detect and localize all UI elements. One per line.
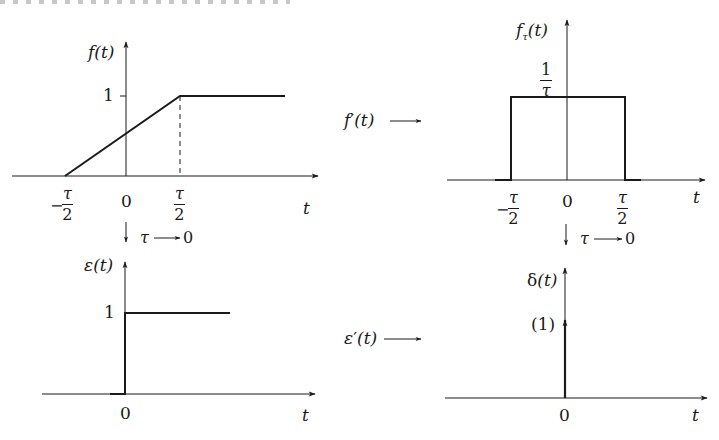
impulse-weight: (1) xyxy=(531,316,555,333)
ylabel-delta: δ(t) xyxy=(527,272,557,289)
limit-tau: τ xyxy=(580,231,589,247)
limit-arrow-right xyxy=(566,224,622,245)
tick-zero: 0 xyxy=(120,405,131,422)
pulse-signal xyxy=(495,97,641,180)
limit-zero: 0 xyxy=(625,231,635,247)
side-label-f-prime: f′(t) xyxy=(344,112,374,129)
step-signal xyxy=(110,313,230,394)
tick-neg-tau-half: τ2 xyxy=(62,186,73,223)
xlabel-t: t xyxy=(692,407,699,424)
ylabel-epsilon: ε(t) xyxy=(84,257,113,274)
level-label: 1 xyxy=(103,87,114,104)
tick-pos-tau-half: τ2 xyxy=(617,190,628,227)
xlabel-t: t xyxy=(302,407,309,424)
side-label-epsilon-prime: ε′(t) xyxy=(344,330,377,347)
panel-ramp xyxy=(12,42,318,176)
limit-arrow-left xyxy=(126,222,180,242)
panel-step xyxy=(42,262,315,394)
pulse-height: 1τ xyxy=(540,62,552,99)
xlabel-t: t xyxy=(303,200,310,217)
xlabel-t: t xyxy=(693,189,700,206)
panel-pulse xyxy=(390,20,705,180)
tick-zero: 0 xyxy=(121,193,132,210)
tick-zero: 0 xyxy=(559,407,570,424)
ramp-signal xyxy=(65,96,285,176)
ylabel-f: f(t) xyxy=(88,44,114,61)
limit-zero: 0 xyxy=(183,230,193,246)
tick-neg-tau-half: τ2 xyxy=(508,190,519,227)
diagram-canvas xyxy=(0,0,719,440)
tick-zero: 0 xyxy=(562,193,573,210)
limit-tau: τ xyxy=(140,230,149,246)
ylabel-f-tau: fτ(t) xyxy=(516,22,548,42)
tick-pos-tau-half: τ2 xyxy=(174,186,185,223)
level-label: 1 xyxy=(104,304,115,321)
